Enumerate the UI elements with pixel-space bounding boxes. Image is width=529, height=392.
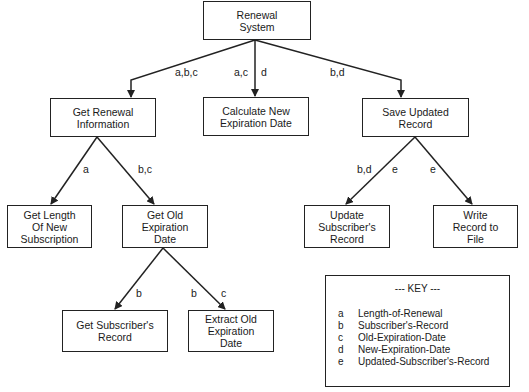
legend-letter: d — [338, 344, 358, 356]
legend-key: --- KEY --- aLength-of-Renewal bSubscrib… — [325, 275, 510, 387]
legend-meaning: Length-of-Renewal — [358, 308, 443, 319]
edge-label: e — [392, 163, 398, 175]
node-get-subscribers-record: Get Subscriber's Record — [62, 310, 168, 352]
edge-label: d — [261, 66, 267, 78]
legend-meaning: New-Expiration-Date — [358, 344, 450, 355]
edge-label: a,c — [234, 66, 248, 78]
legend-meaning: Old-Expiration-Date — [358, 332, 446, 343]
node-save-updated-record: Save Updated Record — [362, 98, 469, 137]
node-get-length-of-new-subscription: Get Length Of New Subscription — [7, 205, 92, 248]
node-label: Calculate New Expiration Date — [220, 105, 292, 129]
node-label: Get Length Of New Subscription — [21, 209, 79, 245]
edge-label: b — [136, 287, 142, 299]
node-extract-old-expiration-date: Extract Old Expiration Date — [188, 310, 274, 352]
legend-letter: e — [338, 356, 358, 368]
edge-label: b,d — [357, 163, 372, 175]
edge-label: a — [83, 163, 89, 175]
legend-item: eUpdated-Subscriber's-Record — [338, 356, 489, 368]
node-label: Save Updated Record — [382, 106, 449, 130]
legend-item: aLength-of-Renewal — [338, 308, 443, 320]
node-calculate-new-expiration-date: Calculate New Expiration Date — [203, 97, 309, 136]
node-update-subscribers-record: Update Subscriber's Record — [304, 205, 390, 248]
node-renewal-system: Renewal System — [203, 1, 311, 40]
node-get-old-expiration-date: Get Old Expiration Date — [122, 205, 208, 248]
node-label: Update Subscriber's Record — [318, 209, 375, 245]
node-get-renewal-information: Get Renewal Information — [50, 98, 156, 137]
legend-letter: a — [338, 308, 358, 320]
legend-letter: c — [338, 332, 358, 344]
legend-item: dNew-Expiration-Date — [338, 344, 450, 356]
node-label: Renewal System — [237, 9, 278, 33]
edge-label: b,d — [330, 66, 345, 78]
node-label: Get Old Expiration Date — [142, 209, 189, 245]
legend-meaning: Subscriber's-Record — [358, 320, 448, 331]
legend-item: cOld-Expiration-Date — [338, 332, 446, 344]
node-write-record-to-file: Write Record to File — [433, 205, 518, 248]
node-label: Write Record to File — [453, 209, 499, 245]
legend-meaning: Updated-Subscriber's-Record — [358, 356, 489, 367]
legend-letter: b — [338, 320, 358, 332]
edge-label: b — [191, 287, 197, 299]
edge-label: b,c — [138, 163, 152, 175]
node-label: Extract Old Expiration Date — [205, 313, 257, 349]
node-label: Get Subscriber's Record — [76, 319, 153, 343]
edge-label: c — [221, 287, 226, 299]
edge-label: e — [430, 163, 436, 175]
legend-title: --- KEY --- — [326, 283, 509, 294]
legend-item: bSubscriber's-Record — [338, 320, 448, 332]
node-label: Get Renewal Information — [73, 106, 134, 130]
edge-label: a,b,c — [175, 66, 198, 78]
